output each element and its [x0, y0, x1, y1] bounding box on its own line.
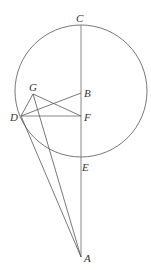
label-b: B	[84, 87, 91, 99]
geometry-diagram: C B F E A D G	[0, 0, 151, 270]
label-f: F	[83, 111, 91, 123]
segment-dg	[21, 94, 33, 116]
segment-da	[21, 116, 81, 257]
segment-gf	[33, 94, 81, 116]
label-g: G	[29, 81, 37, 93]
label-a: A	[83, 252, 91, 264]
label-c: C	[76, 12, 84, 24]
label-d: D	[9, 111, 18, 123]
label-e: E	[81, 161, 89, 173]
segment-db	[21, 93, 81, 116]
segment-ga	[33, 94, 81, 257]
